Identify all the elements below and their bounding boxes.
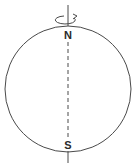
north-pole-label: N (64, 29, 72, 41)
globe-diagram: N S (0, 0, 136, 167)
south-pole-label: S (64, 139, 71, 151)
rotation-arrow-icon (55, 14, 77, 24)
